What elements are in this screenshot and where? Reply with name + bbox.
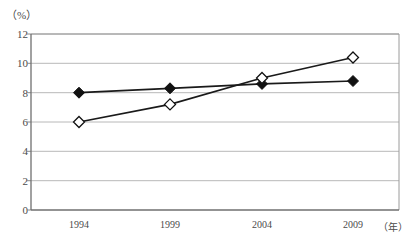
series-filled-diamond-group — [74, 76, 359, 99]
marker-filled-1994 — [74, 87, 85, 98]
line-chart: （%） 12 10 8 6 4 2 0 1994 1999 2004 2009 … — [0, 0, 412, 246]
marker-open-1999 — [165, 99, 176, 110]
marker-open-2009 — [348, 52, 359, 63]
gridlines — [31, 34, 399, 181]
marker-open-1994 — [74, 117, 85, 128]
marker-filled-1999 — [165, 83, 176, 94]
plot-area — [0, 0, 412, 246]
series-open-diamond-line — [79, 58, 353, 123]
marker-filled-2009 — [348, 76, 359, 87]
